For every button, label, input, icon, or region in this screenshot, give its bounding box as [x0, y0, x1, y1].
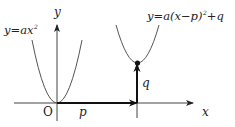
y-axis-label: y [54, 6, 61, 18]
shifted-curve-rhs: +q [207, 9, 224, 23]
p-label: p [79, 106, 87, 118]
base-curve-exponent: 2 [34, 23, 38, 30]
parabola-translation-diagram: y x O p q y=ax2 y=a(x−p)2+q [0, 0, 235, 127]
x-axis-label: x [202, 106, 209, 118]
origin-label: O [43, 106, 53, 118]
shifted-vertex-point [135, 60, 140, 65]
q-label: q [142, 77, 150, 89]
base-curve-lhs: y=ax [4, 23, 33, 37]
shifted-curve-equation: y=a(x−p)2+q [147, 10, 224, 23]
shifted-curve-lhs: y=a(x−p) [147, 9, 202, 23]
base-curve-equation: y=ax2 [4, 24, 38, 37]
shifted-parabola [116, 25, 159, 63]
